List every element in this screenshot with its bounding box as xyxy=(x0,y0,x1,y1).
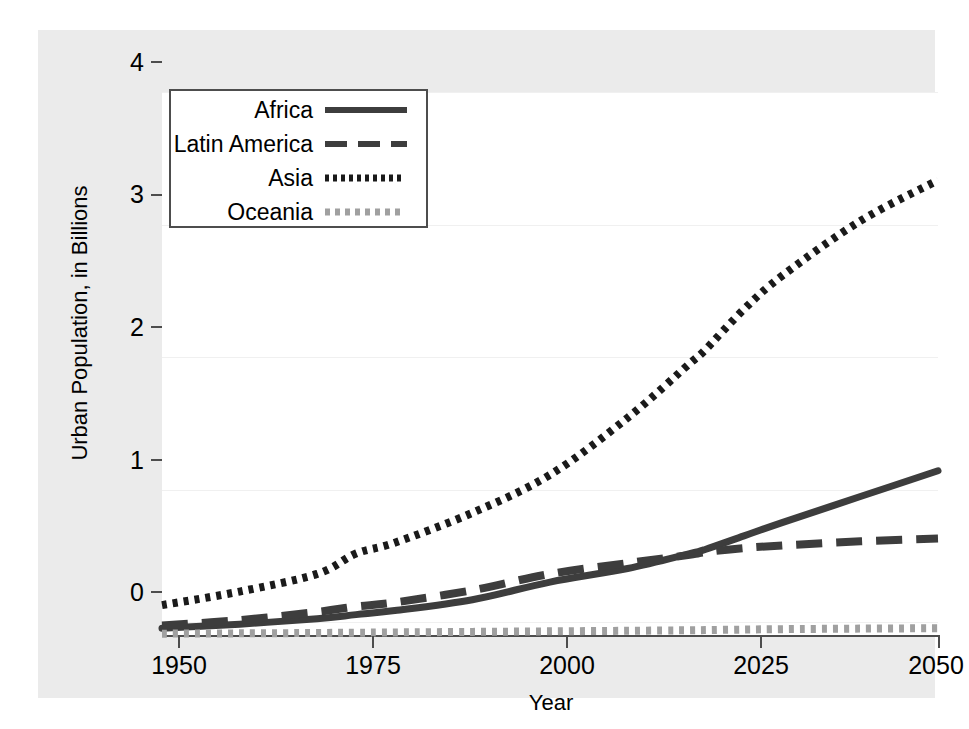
x-tick-label-2000: 2000 xyxy=(507,651,627,680)
x-axis-title: Year xyxy=(162,690,940,716)
legend-item-africa: Africa xyxy=(171,93,426,127)
legend-label-latin-america: Latin America xyxy=(171,131,323,158)
legend-swatch-oceania xyxy=(323,203,409,221)
y-tick-mark-0 xyxy=(151,591,162,593)
legend-item-asia: Asia xyxy=(171,161,426,195)
x-tick-mark-1950 xyxy=(178,636,180,648)
legend-label-asia: Asia xyxy=(171,165,323,192)
legend-swatch-africa xyxy=(323,101,409,119)
y-tick-label-1: 1 xyxy=(98,448,144,473)
x-tick-mark-1975 xyxy=(372,636,374,648)
legend-item-oceania: Oceania xyxy=(171,195,426,229)
legend-label-africa: Africa xyxy=(171,97,323,124)
chart-screenshot: 4 3 2 1 0 Urban Population, in Billions xyxy=(0,0,969,729)
legend-box: Africa Latin America Asia Oceania xyxy=(169,89,428,228)
series-line-oceania xyxy=(162,628,938,633)
x-tick-label-1975: 1975 xyxy=(313,651,433,680)
y-tick-label-2: 2 xyxy=(98,315,144,340)
y-tick-mark-2 xyxy=(151,326,162,328)
y-tick-mark-1 xyxy=(151,459,162,461)
legend-item-latin-america: Latin America xyxy=(171,127,426,161)
x-tick-mark-2000 xyxy=(566,636,568,648)
x-tick-label-1950: 1950 xyxy=(119,651,239,680)
y-tick-label-4: 4 xyxy=(98,50,144,75)
figure-canvas: 4 3 2 1 0 Urban Population, in Billions xyxy=(38,30,935,698)
y-axis-title: Urban Population, in Billions xyxy=(67,103,93,543)
series-line-africa xyxy=(162,471,938,628)
y-tick-label-0: 0 xyxy=(98,580,144,605)
y-tick-label-3: 3 xyxy=(98,182,144,207)
x-tick-label-2050: 2050 xyxy=(876,651,969,680)
legend-label-oceania: Oceania xyxy=(171,199,323,226)
y-tick-mark-3 xyxy=(151,194,162,196)
y-tick-mark-4 xyxy=(151,61,162,63)
x-tick-mark-2050 xyxy=(938,636,940,648)
x-tick-mark-2025 xyxy=(760,636,762,648)
x-tick-label-2025: 2025 xyxy=(701,651,821,680)
legend-swatch-asia xyxy=(323,169,409,187)
legend-swatch-latin-america xyxy=(323,135,409,153)
